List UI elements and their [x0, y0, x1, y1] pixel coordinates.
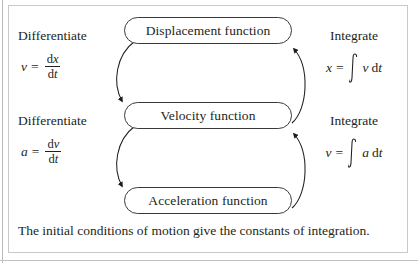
differential-variable: t — [379, 145, 383, 160]
formula-acceleration-derivative: a = dv dt — [18, 138, 138, 166]
fraction-dv-dt: dv dt — [45, 138, 61, 166]
node-acceleration-label: Acceleration function — [148, 193, 267, 209]
node-velocity-function[interactable]: Velocity function — [124, 102, 292, 129]
fraction-denominator: dt — [46, 152, 60, 166]
differentiate-velocity-group: Differentiate a = dv dt — [18, 114, 138, 166]
formula-equals: = — [336, 60, 344, 76]
formula-displacement-integral: x = v dt — [300, 53, 408, 83]
node-displacement-label: Displacement function — [146, 23, 271, 39]
formula-lhs: v — [326, 145, 332, 161]
differentiate-label-lower: Differentiate — [18, 114, 138, 129]
formula-equals: = — [336, 145, 344, 161]
formula-velocity-derivative: v = dx dt — [18, 53, 138, 81]
formula-equals: = — [32, 144, 40, 160]
numerator-variable: v — [54, 137, 60, 151]
formula-lhs: x — [326, 60, 332, 76]
differential-d: d — [372, 145, 379, 160]
differentiate-label-upper: Differentiate — [18, 29, 138, 44]
integrate-label-lower: Integrate — [300, 114, 408, 129]
differential-term: dt — [372, 60, 383, 76]
numerator-variable: x — [53, 52, 59, 66]
outer-bottom-rule — [0, 260, 418, 261]
integral-sign-icon — [348, 138, 358, 168]
node-acceleration-function[interactable]: Acceleration function — [124, 187, 292, 214]
differential-term: dt — [372, 145, 383, 161]
denominator-variable: t — [54, 67, 57, 81]
formula-lhs: v — [21, 59, 27, 75]
fraction-dx-dt: dx dt — [45, 53, 61, 81]
integral-sign-icon — [349, 53, 359, 83]
integrate-velocity-group: Integrate x = v dt — [300, 29, 408, 83]
figure-frame: Displacement function Velocity function … — [0, 0, 418, 263]
integrate-label-upper: Integrate — [300, 29, 408, 44]
fraction-denominator: dt — [46, 67, 60, 81]
denominator-variable: t — [55, 152, 58, 166]
fraction-numerator: dv — [45, 138, 61, 152]
integrand-variable: v — [363, 60, 369, 76]
diagram-canvas: Displacement function Velocity function … — [8, 5, 408, 253]
formula-lhs: a — [21, 144, 28, 160]
differential-variable: t — [378, 60, 382, 75]
node-displacement-function[interactable]: Displacement function — [124, 17, 292, 44]
figure-caption: The initial conditions of motion give th… — [18, 223, 402, 239]
differentiate-displacement-group: Differentiate v = dx dt — [18, 29, 138, 81]
formula-velocity-integral: v = a dt — [300, 138, 408, 168]
integrand-variable: a — [362, 145, 369, 161]
fraction-numerator: dx — [45, 53, 61, 67]
outer-left-rule — [2, 0, 3, 263]
integrate-acceleration-group: Integrate v = a dt — [300, 114, 408, 168]
node-velocity-label: Velocity function — [160, 108, 255, 124]
formula-equals: = — [31, 59, 39, 75]
